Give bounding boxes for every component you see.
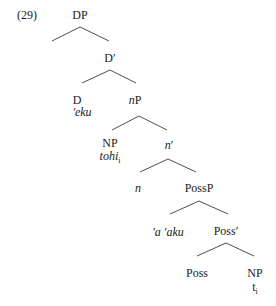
tree-edge <box>110 70 136 83</box>
tree-edges <box>0 0 276 306</box>
node-Poss-bar: Poss′ <box>214 225 239 237</box>
tree-edge <box>199 201 228 214</box>
tree-edge <box>80 27 109 41</box>
node-n: n <box>135 182 141 194</box>
word-tohi: tohii <box>100 150 121 167</box>
trace-index-subscript: i <box>256 287 258 296</box>
word-eku: 'eku <box>72 106 91 118</box>
word-a-aku: 'a 'aku <box>152 226 183 238</box>
trace-t: ti <box>252 281 258 298</box>
tree-edge <box>226 243 254 256</box>
node-D-bar: D′ <box>104 52 115 64</box>
node-nP-P: P <box>135 93 142 107</box>
node-nP: nP <box>129 94 142 106</box>
node-PossP: PossP <box>185 182 214 194</box>
tree-edge <box>170 201 199 214</box>
word-tohi-text: tohi <box>100 149 119 163</box>
node-NP-trace: NP <box>247 267 262 279</box>
node-n-bar: n′ <box>165 139 174 151</box>
node-n-bar-prime: ′ <box>171 138 174 152</box>
node-Poss: Poss <box>186 267 208 279</box>
node-NP-possessor: NP <box>102 137 117 149</box>
tree-edge <box>112 116 139 130</box>
index-subscript: i <box>118 156 120 165</box>
tree-edge <box>140 159 168 172</box>
tree-edge <box>52 27 80 41</box>
tree-edge <box>82 70 110 83</box>
node-DP: DP <box>72 9 87 21</box>
tree-edge <box>197 243 226 256</box>
tree-edge <box>139 116 167 130</box>
tree-edge <box>168 159 196 172</box>
